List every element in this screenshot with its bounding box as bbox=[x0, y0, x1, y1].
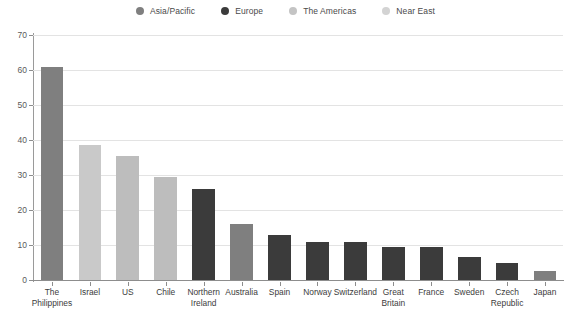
bar[interactable] bbox=[534, 271, 557, 280]
x-axis-tick-mark bbox=[355, 282, 356, 286]
bar-slot bbox=[336, 35, 374, 280]
x-axis-tick-label-line: Republic bbox=[471, 298, 543, 309]
x-axis-tick-mark bbox=[469, 282, 470, 286]
bar-slot bbox=[109, 35, 147, 280]
legend-item[interactable]: Near East bbox=[382, 6, 435, 16]
x-axis-tick-mark bbox=[507, 282, 508, 286]
bar-slot bbox=[374, 35, 412, 280]
bar[interactable] bbox=[116, 156, 139, 280]
x-axis-tick-mark bbox=[166, 282, 167, 286]
x-axis-tick-mark bbox=[431, 282, 432, 286]
bar[interactable] bbox=[306, 242, 329, 281]
x-axis-tick-mark bbox=[204, 282, 205, 286]
legend-swatch-circle-icon bbox=[136, 7, 144, 15]
bar[interactable] bbox=[420, 247, 443, 280]
x-axis-tick-mark bbox=[52, 282, 53, 286]
x-axis-tick-mark bbox=[242, 282, 243, 286]
x-axis-tick-mark bbox=[90, 282, 91, 286]
x-axis-tick-mark bbox=[128, 282, 129, 286]
bar-slot bbox=[261, 35, 299, 280]
y-axis-tick-label: 10 bbox=[3, 240, 27, 250]
bar[interactable] bbox=[154, 177, 177, 280]
bar-slot bbox=[147, 35, 185, 280]
y-axis-tick-label: 60 bbox=[3, 65, 27, 75]
x-axis-tick-label-line: Japan bbox=[509, 287, 571, 298]
x-axis-tick-mark bbox=[545, 282, 546, 286]
legend-swatch-circle-icon bbox=[289, 7, 297, 15]
y-axis-tick-mark bbox=[29, 140, 33, 141]
bar-slot bbox=[412, 35, 450, 280]
bar[interactable] bbox=[344, 242, 367, 280]
x-axis-tick-label-line: Ireland bbox=[168, 298, 240, 309]
x-axis-line bbox=[33, 280, 564, 281]
bar[interactable] bbox=[192, 189, 215, 280]
bar[interactable] bbox=[230, 224, 253, 280]
y-axis-tick-mark bbox=[29, 280, 33, 281]
x-axis-tick-label: Japan bbox=[509, 287, 571, 298]
legend-swatch-circle-icon bbox=[221, 7, 229, 15]
bar-slot bbox=[71, 35, 109, 280]
y-axis-tick-label: 20 bbox=[3, 205, 27, 215]
y-axis-tick-label: 40 bbox=[3, 135, 27, 145]
y-axis-tick-mark bbox=[29, 105, 33, 106]
bar-chart: Asia/PacificEuropeThe AmericasNear East … bbox=[0, 0, 571, 318]
legend-item[interactable]: Europe bbox=[221, 6, 263, 16]
chart-legend: Asia/PacificEuropeThe AmericasNear East bbox=[0, 6, 571, 16]
legend-item-label: Europe bbox=[235, 6, 263, 16]
x-axis-labels: ThePhilippinesIsraelUSChileNorthernIrela… bbox=[33, 282, 564, 318]
x-axis-tick-mark bbox=[317, 282, 318, 286]
x-axis-tick-label-line: Britain bbox=[357, 298, 429, 309]
bar[interactable] bbox=[458, 257, 481, 280]
bar[interactable] bbox=[496, 263, 519, 281]
y-axis-tick-mark bbox=[29, 175, 33, 176]
x-axis-tick-label-line: Philippines bbox=[16, 298, 88, 309]
legend-swatch-circle-icon bbox=[382, 7, 390, 15]
bar-slot bbox=[299, 35, 337, 280]
x-axis-tick-mark bbox=[280, 282, 281, 286]
y-axis-tick-mark bbox=[29, 245, 33, 246]
y-axis-tick-label: 50 bbox=[3, 100, 27, 110]
legend-item-label: The Americas bbox=[303, 6, 356, 16]
y-axis-tick-label: 0 bbox=[3, 275, 27, 285]
bar[interactable] bbox=[41, 67, 64, 281]
y-axis-tick-mark bbox=[29, 35, 33, 36]
legend-item-label: Asia/Pacific bbox=[150, 6, 195, 16]
bar[interactable] bbox=[382, 247, 405, 280]
y-axis-tick-mark bbox=[29, 70, 33, 71]
bar-slot bbox=[185, 35, 223, 280]
bar-slot bbox=[223, 35, 261, 280]
y-axis-labels: 010203040506070 bbox=[0, 0, 27, 318]
bar[interactable] bbox=[268, 235, 291, 281]
bar-slot bbox=[526, 35, 564, 280]
bar[interactable] bbox=[79, 145, 102, 280]
y-axis-tick-label: 30 bbox=[3, 170, 27, 180]
bar-slot bbox=[450, 35, 488, 280]
y-axis-tick-label: 70 bbox=[3, 30, 27, 40]
legend-item-label: Near East bbox=[396, 6, 435, 16]
bar-series-area bbox=[33, 35, 564, 280]
legend-item[interactable]: The Americas bbox=[289, 6, 356, 16]
x-axis-tick-mark bbox=[393, 282, 394, 286]
bar-slot bbox=[33, 35, 71, 280]
legend-item[interactable]: Asia/Pacific bbox=[136, 6, 195, 16]
y-axis-tick-mark bbox=[29, 210, 33, 211]
bar-slot bbox=[488, 35, 526, 280]
